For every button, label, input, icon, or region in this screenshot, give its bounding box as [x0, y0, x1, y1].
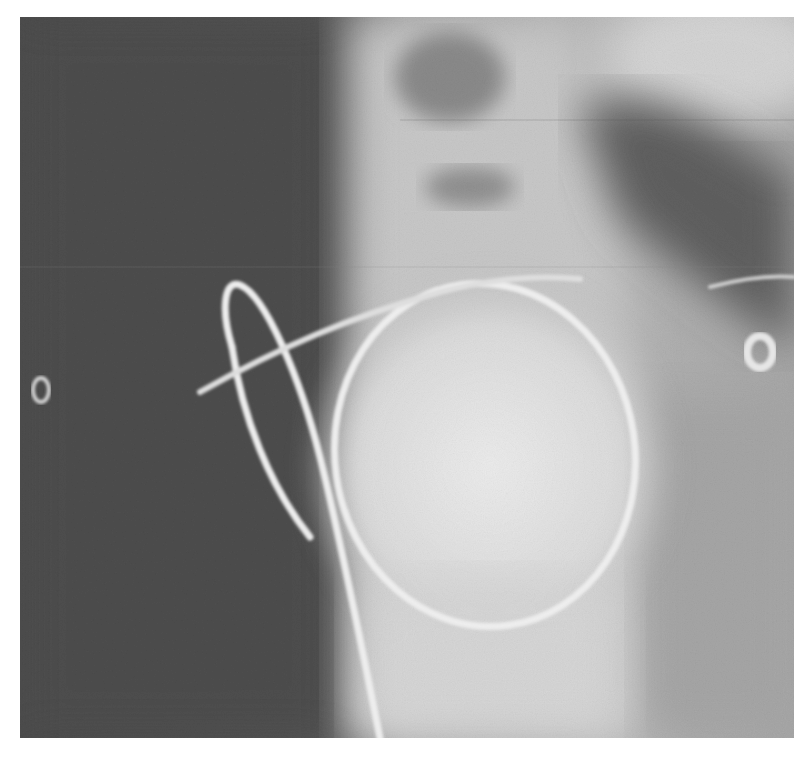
xray-canvas: [20, 17, 794, 738]
xray-image: [20, 17, 794, 738]
